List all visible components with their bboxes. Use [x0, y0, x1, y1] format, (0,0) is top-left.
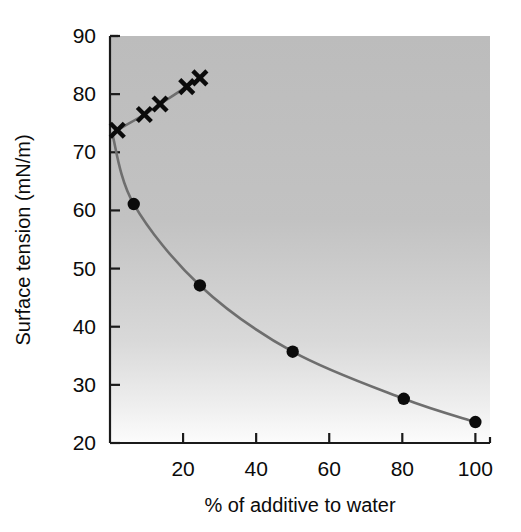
y-tick-label: 40 — [73, 315, 96, 338]
chart-figure: 2030405060708090 20406080100 % of additi… — [0, 0, 521, 532]
x-tick-label: 40 — [244, 457, 267, 480]
data-point-circle — [128, 198, 140, 210]
y-tick-label: 90 — [73, 24, 96, 47]
x-tick-label: 60 — [318, 457, 341, 480]
data-point-circle — [469, 416, 481, 428]
x-tick-label: 20 — [171, 457, 194, 480]
y-tick-label: 30 — [73, 373, 96, 396]
x-tick-label: 100 — [458, 457, 493, 480]
y-tick-label: 70 — [73, 140, 96, 163]
y-tick-label: 80 — [73, 82, 96, 105]
x-axis-title: % of additive to water — [204, 494, 396, 516]
data-point-circle — [398, 393, 410, 405]
x-tick-label: 80 — [391, 457, 414, 480]
y-axis-title: Surface tension (mN/m) — [12, 134, 34, 345]
data-point-circle — [286, 346, 298, 358]
y-tick-label: 20 — [73, 431, 96, 454]
y-axis-tick-labels: 2030405060708090 — [73, 24, 96, 454]
surface-tension-chart: 2030405060708090 20406080100 % of additi… — [0, 0, 521, 532]
data-point-circle — [194, 279, 206, 291]
y-tick-label: 60 — [73, 198, 96, 221]
x-axis-tick-labels: 20406080100 — [171, 457, 493, 480]
y-tick-label: 50 — [73, 257, 96, 280]
